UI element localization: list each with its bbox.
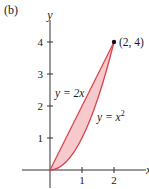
- parabola-label-base: y = x: [96, 111, 122, 124]
- y-tick-label-4: 4: [38, 36, 44, 48]
- x-tick-label-1: 1: [79, 174, 85, 186]
- point-marker: [112, 40, 116, 44]
- y-tick-label-1: 1: [38, 132, 44, 144]
- x-tick-label-2: 2: [111, 174, 117, 186]
- y-tick-label-2: 2: [38, 100, 44, 112]
- y-axis-label: y: [46, 8, 53, 22]
- point-label: (2, 4): [119, 36, 144, 49]
- line-label: y = 2x: [54, 87, 85, 100]
- parabola-label-sup: 2: [121, 109, 125, 118]
- chart-canvas: (b) 1 2 1 2 3 4 y x (2, 4) y = 2x y = x2: [0, 0, 149, 189]
- x-axis-label: x: [145, 163, 149, 177]
- panel-label: (b): [4, 3, 18, 17]
- parabola-label: y = x2: [96, 109, 125, 124]
- y-tick-label-3: 3: [38, 68, 44, 80]
- line-y-2x: [50, 42, 114, 170]
